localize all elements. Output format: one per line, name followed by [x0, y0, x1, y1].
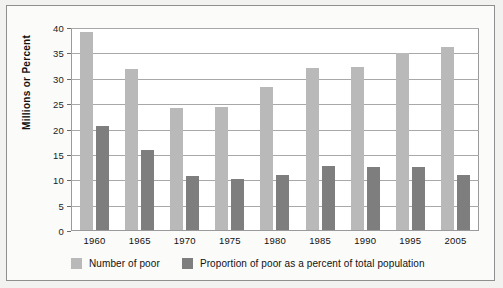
legend-item[interactable]: Number of poor — [71, 258, 160, 269]
x-tick-label: 1970 — [174, 235, 196, 246]
chart-frame: Millions or Percent 0510152025303540 196… — [6, 5, 495, 281]
bar[interactable] — [215, 107, 228, 230]
bar[interactable] — [367, 167, 380, 230]
bar-group: 1995 — [388, 29, 433, 230]
bar[interactable] — [141, 150, 154, 230]
bar[interactable] — [80, 32, 93, 230]
y-tick-label: 10 — [53, 175, 64, 186]
bar[interactable] — [412, 167, 425, 230]
bar[interactable] — [351, 67, 364, 230]
bar-group: 1970 — [162, 29, 207, 230]
y-tick-mark — [67, 155, 71, 156]
bar[interactable] — [125, 69, 138, 230]
bar-group: 1965 — [117, 29, 162, 230]
bar[interactable] — [322, 166, 335, 230]
legend-label: Number of poor — [89, 258, 160, 269]
bar-groups: 196019651970197519801985199019952005 — [72, 29, 478, 230]
bar[interactable] — [170, 108, 183, 230]
bar[interactable] — [231, 179, 244, 230]
x-tick-label: 1990 — [354, 235, 376, 246]
y-tick-label: 25 — [53, 99, 64, 110]
bar-group: 1985 — [298, 29, 343, 230]
x-tick-label: 1965 — [129, 235, 151, 246]
bar[interactable] — [457, 175, 470, 230]
legend-swatch — [182, 258, 193, 269]
y-tick-mark — [67, 206, 71, 207]
y-tick-label: 35 — [53, 48, 64, 59]
bar[interactable] — [306, 68, 319, 230]
bar[interactable] — [441, 47, 454, 230]
legend-swatch — [71, 258, 82, 269]
y-tick-mark — [67, 28, 71, 29]
y-tick-label: 20 — [53, 124, 64, 135]
bar[interactable] — [396, 53, 409, 230]
y-tick-label: 0 — [59, 226, 64, 237]
y-axis-title: Millions or Percent — [21, 35, 32, 130]
plot-area: 0510152025303540 19601965197019751980198… — [71, 28, 479, 231]
chart-figure: Millions or Percent 0510152025303540 196… — [0, 0, 503, 288]
y-tick-mark — [67, 53, 71, 54]
bar-group: 1980 — [252, 29, 297, 230]
x-tick-label: 1985 — [309, 235, 331, 246]
legend-item[interactable]: Proportion of poor as a percent of total… — [182, 258, 425, 269]
y-tick-label: 15 — [53, 149, 64, 160]
y-tick-mark — [67, 130, 71, 131]
y-tick-label: 30 — [53, 73, 64, 84]
x-tick-label: 1995 — [399, 235, 421, 246]
x-tick-label: 1960 — [84, 235, 106, 246]
chart-legend: Number of poorProportion of poor as a pe… — [71, 258, 425, 269]
y-tick-mark — [67, 104, 71, 105]
y-tick-label: 5 — [59, 200, 64, 211]
x-tick-label: 1975 — [219, 235, 241, 246]
bar[interactable] — [96, 126, 109, 230]
bar[interactable] — [260, 87, 273, 230]
x-tick-label: 1980 — [264, 235, 286, 246]
bar[interactable] — [276, 175, 289, 230]
bar-group: 1960 — [72, 29, 117, 230]
y-tick-mark — [67, 79, 71, 80]
bar-group: 1990 — [343, 29, 388, 230]
y-tick-mark — [67, 231, 71, 232]
y-tick-mark — [67, 180, 71, 181]
bar[interactable] — [186, 176, 199, 230]
bar-group: 2005 — [433, 29, 478, 230]
bar-group: 1975 — [207, 29, 252, 230]
legend-label: Proportion of poor as a percent of total… — [200, 258, 425, 269]
x-tick-label: 2005 — [444, 235, 466, 246]
y-tick-label: 40 — [53, 23, 64, 34]
